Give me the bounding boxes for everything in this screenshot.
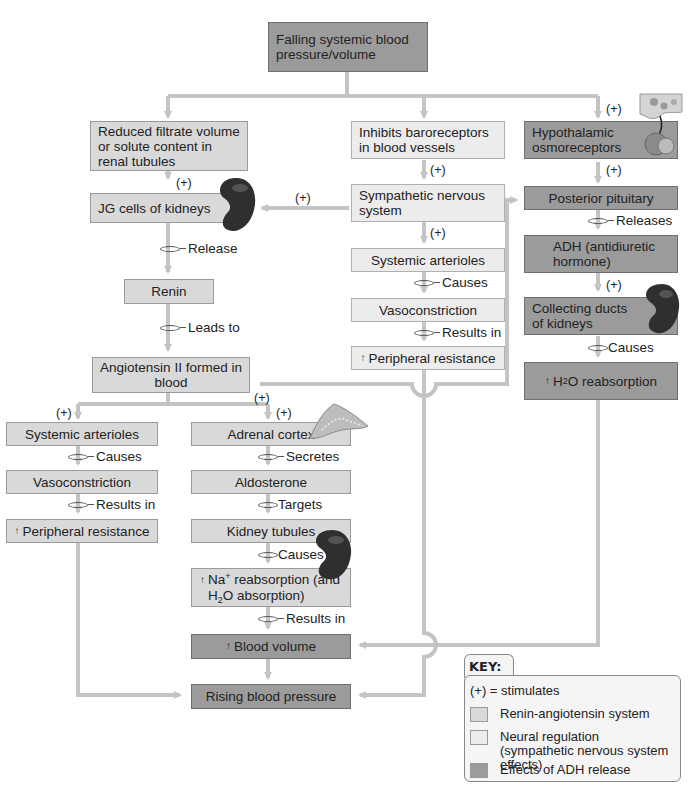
increase-arrow-icon: ↑ [200,574,205,585]
legend-label: Renin-angiotensin system [500,707,650,721]
sympathetic-node: Sympathetic nervous system [351,184,505,222]
connector-label: Causes [608,340,654,355]
legend-label: Effects of ADH release [500,763,631,777]
increase-arrow-icon: ↑ [545,373,550,388]
falling-bp-node: Falling systemic blood pressure/volume [268,22,428,72]
stimulates-label: (+) [295,191,311,205]
reduced-filtrate-node: Reduced filtrate volume or solute conten… [90,121,248,171]
legend-swatch [470,707,488,722]
connector-label: Releases [616,213,672,228]
connector-ring-icon [68,454,88,460]
aldosterone-node: Aldosterone [191,470,351,494]
legend-stimulates: (+) = stimulates [470,684,560,698]
node-label: Falling systemic blood pressure/volume [276,32,420,62]
mid-vasoconstriction-node: Vasoconstriction [351,298,505,322]
node-label: Sympathetic nervous system [359,188,497,218]
connector-label: Release [188,241,238,256]
connector-ring-icon [258,502,278,508]
legend-item-renin: Renin-angiotensin system [470,707,650,722]
posterior-pituitary-node: Posterior pituitary [524,186,678,210]
connector-label: Causes [96,449,142,464]
left-arterioles-node: Systemic arterioles [6,422,158,446]
node-label: Posterior pituitary [548,191,653,206]
stimulates-label: (+) [606,102,622,116]
connector-ring-icon [588,345,608,351]
kidney-icon [310,528,354,582]
node-label: Vasoconstriction [379,303,477,318]
blood-volume-node: ↑ Blood volume [191,634,351,659]
text: H [208,588,218,603]
connector-label: Results in [286,611,345,626]
hypothalamus-pituitary-icon [636,92,686,158]
adh-node: ADH (antidiuretic hormone) [524,235,678,273]
text: H [553,374,563,389]
leads-to-connector: Leads to [160,320,240,335]
results-in-connector: Results in [414,325,501,340]
stimulates-label: (+) [176,176,192,190]
connector-label: Leads to [188,320,240,335]
node-label: Inhibits baroreceptors in blood vessels [359,125,497,155]
causes-connector: Causes [414,275,488,290]
stimulates-label: (+) [254,391,270,405]
stimulates-label: (+) [606,163,622,177]
results-in-connector: Results in [68,497,155,512]
connector-ring-icon [258,454,278,460]
stimulates-label: (+) [56,406,72,420]
release-connector: Release [160,241,238,256]
increase-arrow-icon: ↑ [226,638,231,653]
node-label: Aldosterone [235,475,307,490]
node-label: Angiotensin II formed in blood [100,360,242,390]
left-peripheral-resistance-node: ↑ Peripheral resistance [6,519,158,543]
node-label: JG cells of kidneys [98,201,211,216]
left-vasoconstriction-node: Vasoconstriction [6,470,158,494]
legend-item-adh: Effects of ADH release [470,763,631,778]
mid-peripheral-resistance-node: ↑ Peripheral resistance [351,346,505,370]
mid-arterioles-node: Systemic arterioles [351,248,505,272]
connector-ring-icon [258,616,278,622]
node-label: Systemic arterioles [371,253,485,268]
connector-label: Results in [442,325,501,340]
node-label: ADH (antidiuretic hormone) [553,239,670,269]
connector-label: Secretes [286,449,339,464]
connector-ring-icon [414,330,434,336]
increase-arrow-icon: ↑ [361,350,366,365]
connector-ring-icon [160,246,180,252]
connector-label: Results in [96,497,155,512]
node-label: O reabsorption [568,374,657,389]
rising-bp-node: Rising blood pressure [191,684,351,709]
node-label: Peripheral resistance [369,351,496,366]
connector-label: Targets [278,497,322,512]
node-label: Blood volume [234,639,316,654]
node-label: Rising blood pressure [206,689,337,704]
text: Na [208,572,225,587]
connector-label: Causes [442,275,488,290]
connector-ring-icon [160,325,180,331]
stimulates-label: (+) [430,226,446,240]
angiotensin-node: Angiotensin II formed in blood [92,357,250,393]
blood-pressure-regulation-diagram: Falling systemic blood pressure/volume R… [0,0,698,792]
targets-connector: Targets [258,497,322,512]
h2o-reabsorption-node: ↑ H2O reabsorption [524,362,678,400]
causes-connector: Causes [68,449,142,464]
baroreceptors-node: Inhibits baroreceptors in blood vessels [351,121,505,159]
node-label: Renin [151,284,186,299]
connector-ring-icon [68,502,88,508]
adrenal-gland-icon [306,400,370,442]
releases-connector: Releases [588,213,672,228]
renin-node: Renin [124,279,214,304]
node-label: Vasoconstriction [33,475,131,490]
stimulates-label: (+) [276,406,292,420]
node-label: Kidney tubules [227,524,316,539]
text: O absorption) [223,588,305,603]
connector-ring-icon [588,218,608,224]
node-label: Reduced filtrate volume or solute conten… [98,124,240,169]
node-label: Adrenal cortex [227,427,314,442]
connector-ring-icon [258,552,278,558]
secretes-connector: Secretes [258,449,339,464]
results-in-connector: Results in [258,611,345,626]
stimulates-label: (+) [606,278,622,292]
legend-label: (+) = stimulates [470,684,560,698]
stimulates-label: (+) [430,163,446,177]
kidney-icon [212,176,258,234]
legend-swatch [470,763,488,778]
